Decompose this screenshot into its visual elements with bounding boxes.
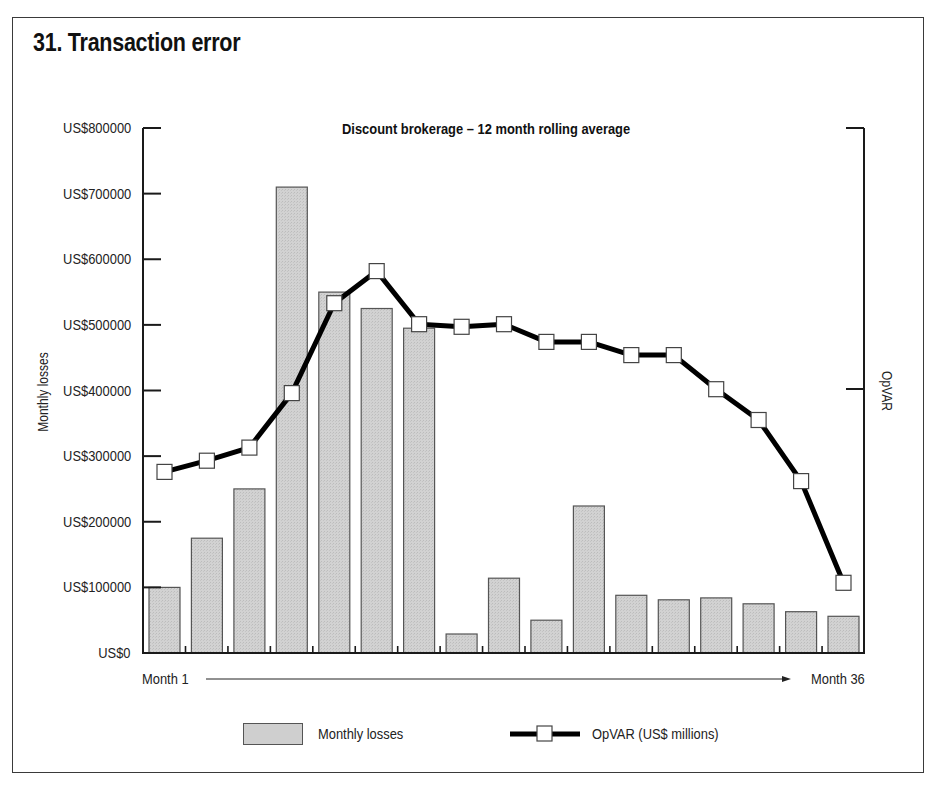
opvar-marker: [157, 464, 172, 479]
x-axis-arrow: [206, 676, 791, 682]
bar: [276, 187, 307, 653]
legend-bars-swatch: [243, 723, 303, 745]
chart-plot-area: [0, 0, 929, 792]
opvar-marker: [709, 382, 724, 397]
opvar-marker: [242, 440, 257, 455]
opvar-marker: [539, 334, 554, 349]
bar: [361, 309, 392, 654]
bar: [446, 634, 477, 653]
bar: [531, 620, 562, 653]
opvar-marker: [327, 296, 342, 311]
bar: [743, 604, 774, 653]
opvar-marker: [624, 348, 639, 363]
bar: [828, 616, 859, 653]
opvar-marker: [581, 334, 596, 349]
bar: [616, 595, 647, 653]
bar: [319, 292, 350, 653]
legend-line-label: OpVAR (US$ millions): [592, 725, 719, 742]
opvar-marker: [497, 317, 512, 332]
bar: [191, 538, 222, 653]
bar: [786, 612, 817, 653]
opvar-marker: [794, 474, 809, 489]
opvar-marker: [751, 413, 766, 428]
bar: [701, 598, 732, 653]
legend-bars-label: Monthly losses: [318, 725, 403, 742]
opvar-marker: [199, 453, 214, 468]
bar: [489, 578, 520, 653]
opvar-marker: [454, 319, 469, 334]
bar: [234, 489, 265, 653]
opvar-marker: [369, 264, 384, 279]
opvar-marker: [836, 575, 851, 590]
opvar-marker: [284, 386, 299, 401]
x-end-label: Month 36: [811, 670, 865, 687]
bar: [658, 600, 689, 653]
opvar-marker: [412, 317, 427, 332]
bar: [404, 328, 435, 653]
bar: [573, 506, 604, 653]
legend-line-swatch: [505, 722, 585, 746]
x-start-label: Month 1: [142, 670, 189, 687]
opvar-marker: [666, 348, 681, 363]
bar: [149, 587, 180, 653]
